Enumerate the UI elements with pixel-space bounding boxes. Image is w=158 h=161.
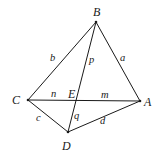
vertex-dot-group [27,21,142,134]
segment-label-n: n [51,89,56,100]
vertex-dot-D [67,131,70,134]
vertex-label-C: C [12,94,20,106]
geometry-diagram: BCADE bapqnmcd [0,0,158,161]
vertex-dot-A [139,100,142,103]
vertex-dot-C [27,99,30,102]
vertex-label-D: D [62,140,71,152]
vertex-label-B: B [93,6,100,18]
segment-label-q: q [74,111,79,122]
segment-label-a: a [120,53,125,64]
segment-label-c: c [36,113,41,124]
edge-group [28,22,140,132]
geometry-canvas [0,0,158,161]
segment-label-d: d [100,116,105,127]
vertex-label-A: A [144,96,151,108]
vertex-label-E: E [68,88,75,100]
line-C-A [28,100,140,101]
segment-label-p: p [89,55,94,66]
vertex-dot-B [95,21,98,24]
segment-label-b: b [50,53,55,64]
segment-label-m: m [101,90,109,101]
line-C-D [28,100,68,132]
